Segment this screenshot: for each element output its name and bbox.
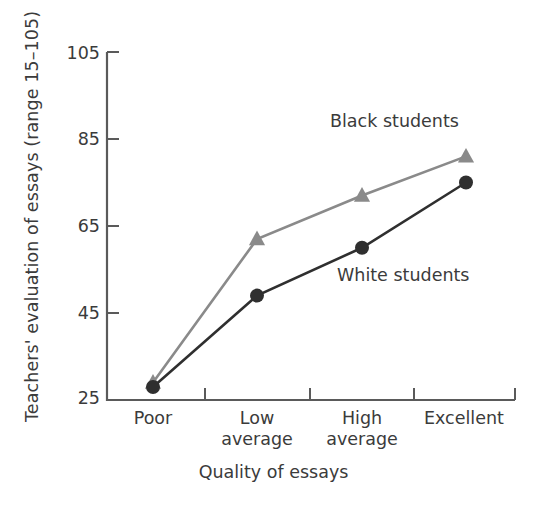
data-point-triangle [458, 148, 474, 163]
x-tick-line: average [302, 429, 422, 450]
chart-figure: Teachers' evaluation of essays (range 15… [0, 0, 547, 510]
y-tick-marks [107, 52, 119, 313]
axis-lines [107, 52, 515, 400]
x-tick-marks [205, 388, 515, 400]
series-annotation-black-students: Black students [330, 111, 459, 131]
x-tick-line: Excellent [404, 408, 524, 429]
data-point-circle [146, 380, 160, 394]
x-axis-title: Quality of essays [0, 462, 547, 482]
data-point-circle [355, 241, 369, 255]
x-tick-line: average [197, 429, 317, 450]
series-annotation-white-students: White students [337, 265, 469, 285]
x-tick-label-low-average: Low average [197, 408, 317, 450]
x-tick-line: Poor [93, 408, 213, 429]
x-tick-label-excellent: Excellent [404, 408, 524, 429]
x-tick-label-poor: Poor [93, 408, 213, 429]
data-point-circle [250, 289, 264, 303]
data-point-circle [459, 176, 473, 190]
x-tick-line: Low [197, 408, 317, 429]
